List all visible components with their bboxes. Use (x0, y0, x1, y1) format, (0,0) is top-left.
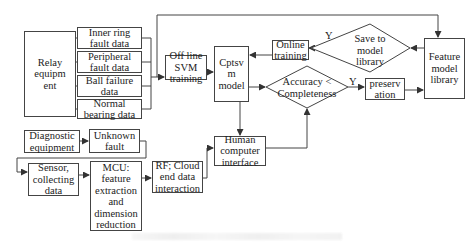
diagnostic-equipment-label: Diagnostic equipment (25, 130, 79, 153)
cptsvm-model-node: Cptsv m model (214, 46, 249, 102)
preservation-node: preserv ation (365, 78, 405, 100)
ball-failure-node: Ball failure data (77, 75, 142, 97)
figure-caption (132, 233, 342, 240)
normal-bearing-node: Normal bearing data (77, 99, 142, 119)
sensor-collecting-node: Sensor, collecting data (28, 163, 79, 196)
relay-equipment-node: Relay equipm ent (24, 31, 76, 117)
human-computer-interface-label: Human computer interface (216, 134, 264, 169)
cptsvm-model-label: Cptsv m model (217, 57, 247, 92)
save-yes-label: Y (325, 30, 333, 41)
peripheral-fault-node: Peripheral fault data (77, 51, 142, 73)
unknown-fault-node: Unknown fault (89, 129, 140, 153)
diagnostic-equipment-node: Diagnostic equipment (24, 130, 80, 153)
save-to-library-label: Save to model library (346, 33, 394, 68)
offline-svm-training-label: Off line SVM training (166, 50, 206, 85)
rf-cloud-interaction-label: RF; Cloud end data interaction (153, 160, 202, 195)
relay-equipment-label: Relay equipm ent (30, 57, 70, 92)
offline-svm-training-node: Off line SVM training (165, 55, 207, 80)
preservation-label: preserv ation (367, 78, 403, 101)
rf-cloud-interaction-node: RF; Cloud end data interaction (152, 161, 203, 193)
accuracy-completeness-label: Accuracy < Completeness (274, 76, 340, 99)
unknown-fault-label: Unknown fault (92, 130, 138, 153)
inner-ring-fault-label: Inner ring fault data (82, 27, 138, 50)
normal-bearing-label: Normal bearing data (79, 98, 141, 121)
feature-model-library-node: Feature model library (424, 38, 465, 99)
online-training-node: Online training (272, 40, 309, 60)
human-computer-interface-node: Human computer interface (214, 136, 266, 166)
ball-failure-label: Ball failure data (79, 75, 141, 98)
flowchart-diagram: Relay equipm ent Inner ring fault data P… (0, 0, 476, 244)
sensor-collecting-label: Sensor, collecting data (30, 162, 78, 197)
mcu-feature-extraction-node: MCU: feature extraction and dimension re… (90, 161, 142, 231)
inner-ring-fault-node: Inner ring fault data (77, 27, 142, 49)
accuracy-yes-label: Y (349, 76, 357, 87)
mcu-feature-extraction-label: MCU: feature extraction and dimension re… (92, 162, 140, 231)
online-training-label: Online training (273, 39, 308, 62)
feature-model-library-label: Feature model library (426, 51, 464, 86)
peripheral-fault-label: Peripheral fault data (82, 51, 138, 74)
